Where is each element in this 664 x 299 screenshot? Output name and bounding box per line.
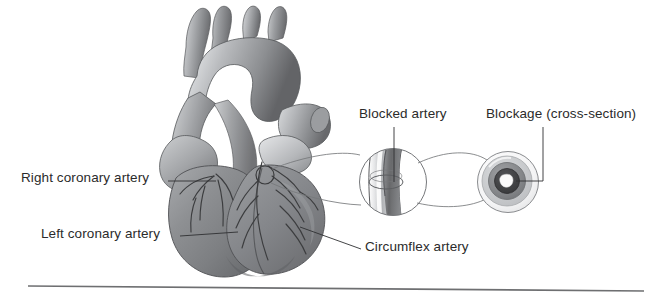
label-left-coronary-artery: Left coronary artery: [41, 226, 160, 241]
label-circumflex-artery: Circumflex artery: [365, 239, 469, 254]
label-right-coronary-artery: Right coronary artery: [21, 170, 149, 185]
label-blocked-artery: Blocked artery: [359, 106, 447, 121]
label-blockage-cross-section: Blockage (cross-section): [486, 106, 636, 121]
blockage-cross-section: [478, 152, 539, 213]
magnified-blocked-artery: [358, 147, 429, 218]
magnifier-expander-cross-section: [417, 153, 487, 207]
coronary-blockage-figure: Right coronary artery Left coronary arte…: [0, 0, 664, 299]
illustration-layer: [0, 0, 664, 299]
ventricles: [169, 165, 325, 277]
heart-illustration: [160, 6, 333, 277]
bottom-rule: [28, 286, 644, 291]
